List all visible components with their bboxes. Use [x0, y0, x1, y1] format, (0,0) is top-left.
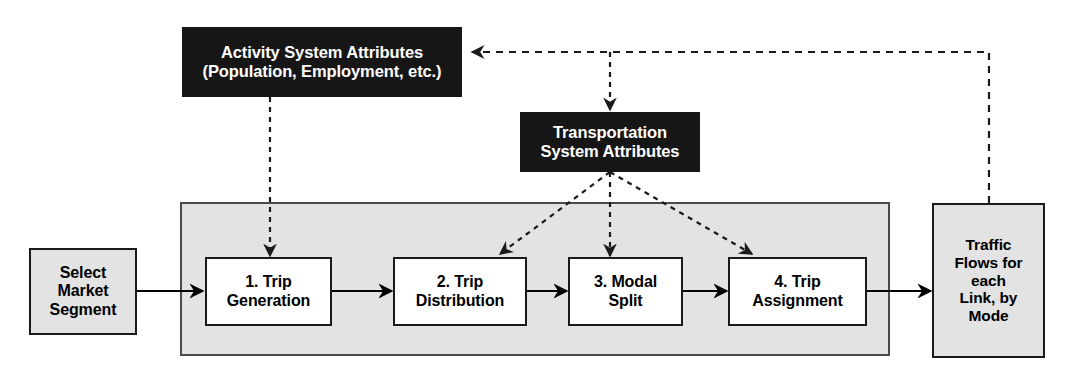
- activity-system-attributes-box: Activity System Attributes (Population, …: [182, 27, 462, 97]
- diagram-canvas: Activity System Attributes (Population, …: [0, 0, 1072, 376]
- traffic-flows-output-box: Traffic Flows for each Link, by Mode: [932, 203, 1045, 358]
- select-market-segment-label: Select Market Segment: [46, 264, 121, 320]
- step-3-label: 3. Modal Split: [590, 273, 661, 310]
- step-1-label: 1. Trip Generation: [223, 273, 314, 310]
- transportation-system-attributes-box: Transportation System Attributes: [520, 112, 700, 172]
- step-4-trip-assignment-box: 4. Trip Assignment: [728, 257, 867, 326]
- select-market-segment-box: Select Market Segment: [29, 248, 137, 335]
- step-2-trip-distribution-box: 2. Trip Distribution: [393, 257, 527, 326]
- step-4-label: 4. Trip Assignment: [748, 273, 847, 310]
- traffic-flows-label: Traffic Flows for each Link, by Mode: [951, 236, 1027, 326]
- step-2-label: 2. Trip Distribution: [412, 273, 509, 310]
- transportation-system-attributes-label: Transportation System Attributes: [537, 123, 684, 161]
- activity-system-attributes-label: Activity System Attributes (Population, …: [198, 43, 445, 81]
- step-3-modal-split-box: 3. Modal Split: [568, 257, 683, 326]
- step-1-trip-generation-box: 1. Trip Generation: [205, 257, 332, 326]
